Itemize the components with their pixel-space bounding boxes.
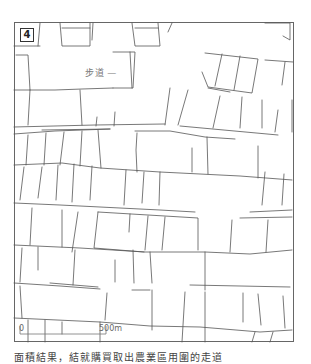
walkway-label-text: 步道 bbox=[85, 68, 104, 78]
scale-bar bbox=[20, 326, 106, 334]
figure-caption: 面積結果，結就購買取出農業區用圍的走道 bbox=[14, 349, 223, 364]
parcel-map bbox=[0, 0, 311, 345]
parcel-line-drawing bbox=[0, 0, 311, 345]
scale-bar-end-label: 500m bbox=[99, 324, 122, 333]
walkway-label: 步道 — bbox=[85, 66, 117, 79]
scale-bar-start-label: 0 bbox=[19, 324, 24, 333]
panel-number-badge: 4 bbox=[20, 28, 34, 42]
